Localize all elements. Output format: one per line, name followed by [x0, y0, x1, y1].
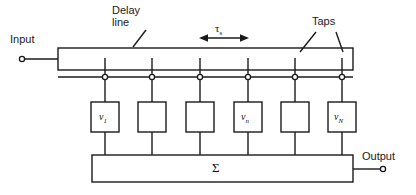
delay-line-leader: [133, 30, 146, 47]
tau-s-label: τs: [215, 22, 222, 37]
weight-label-6: vN: [334, 111, 343, 125]
tap-node-2: [149, 74, 154, 79]
taps-label: Taps: [312, 15, 335, 27]
delay-line-label: Delay line: [112, 4, 140, 28]
summation-block: [92, 155, 353, 182]
weight-label-1: v1: [99, 111, 107, 125]
weight-label-4-sub: n: [245, 117, 249, 125]
tap-node-1: [102, 74, 107, 79]
weight-label-4: vn: [241, 111, 249, 125]
tap-node-6: [339, 74, 344, 79]
taps-leader-left: [300, 32, 316, 52]
output-terminal-node: [380, 166, 385, 171]
tau-arrowhead-left: [199, 34, 208, 41]
output-label: Output: [362, 150, 395, 162]
input-terminal-node: [19, 56, 24, 61]
figure-tapped-delay-line: Input Output Delay line Taps τs Σ v1 vn …: [0, 0, 416, 195]
tap-node-3: [197, 74, 202, 79]
weight-box-3: [186, 102, 214, 132]
input-label: Input: [10, 33, 34, 45]
tau-arrowhead-right: [240, 34, 249, 41]
tap-node-4: [245, 74, 250, 79]
weight-label-6-sub: N: [338, 117, 343, 125]
weight-box-2: [138, 102, 166, 132]
taps-leader-right: [336, 32, 343, 52]
weight-label-1-sub: 1: [103, 117, 107, 125]
weight-box-5: [281, 102, 309, 132]
tap-node-5: [292, 74, 297, 79]
tau-subscript: s: [219, 29, 222, 37]
delay-line-box: [58, 48, 353, 70]
summation-symbol: Σ: [212, 160, 220, 176]
diagram-canvas: [0, 0, 416, 195]
